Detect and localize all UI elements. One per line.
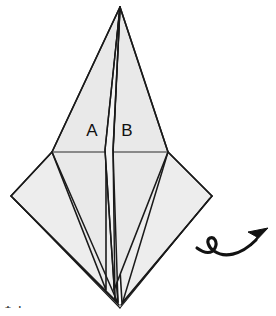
page-number-text: 14 [4,306,44,312]
label-point-a: A [86,121,98,140]
origami-illustration: A B [0,0,276,316]
turn-over-arrow-curve [197,238,256,255]
label-point-b: B [121,121,132,140]
origami-diagram-figure: A B 14 [0,0,276,316]
turn-over-arrow [197,228,268,255]
page-number-fragment: 14 [4,306,44,316]
